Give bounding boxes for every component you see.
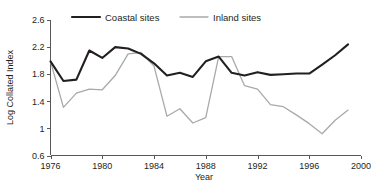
series-line-inland-sites [51, 53, 349, 134]
y-tick-label: 1.4 [32, 97, 45, 107]
y-tick-label: 2.6 [32, 15, 45, 25]
x-tick-label: 1976 [40, 161, 60, 171]
series-line-coastal-sites [51, 44, 349, 81]
x-tick-label: 1984 [144, 161, 164, 171]
legend: Coastal sites Inland sites [72, 12, 261, 23]
y-axis-title: Log Collated Index [5, 49, 15, 125]
x-axis: 1976198019841988199219962000 [40, 156, 371, 171]
x-tick-label: 2000 [351, 161, 371, 171]
y-tick-label: 1.8 [32, 69, 45, 79]
line-chart: 0.611.41.82.22.6 19761980198419881992199… [0, 0, 381, 186]
legend-label-inland-sites: Inland sites [213, 12, 261, 23]
series-group [51, 44, 349, 133]
x-axis-title: Year [195, 172, 213, 182]
y-tick-label: 2.2 [32, 42, 45, 52]
x-tick-label: 1988 [196, 161, 216, 171]
y-tick-group: 0.611.41.82.22.6 [32, 15, 51, 161]
x-tick-group: 1976198019841988199219962000 [40, 156, 371, 171]
y-axis: 0.611.41.82.22.6 [32, 15, 51, 161]
y-tick-label: 1 [39, 124, 44, 134]
legend-label-coastal-sites: Coastal sites [105, 12, 160, 23]
x-tick-label: 1996 [299, 161, 319, 171]
y-tick-label: 0.6 [32, 151, 45, 161]
x-tick-label: 1980 [92, 161, 112, 171]
x-tick-label: 1992 [247, 161, 267, 171]
chart-container: 0.611.41.82.22.6 19761980198419881992199… [0, 0, 381, 186]
